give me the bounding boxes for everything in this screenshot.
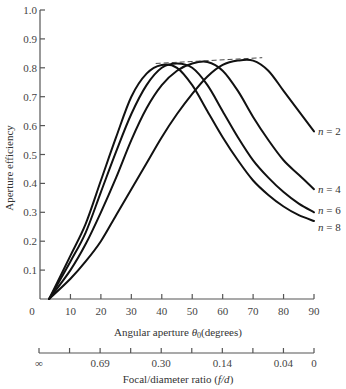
- y-axis-title: Aperture efficiency: [3, 125, 15, 211]
- series-label: n = 8: [318, 221, 341, 233]
- f-tick-label: 0.30: [152, 357, 172, 369]
- x-tick-label: 20: [95, 305, 107, 317]
- y-tick-label: 0.2: [23, 235, 37, 247]
- focal-ratio-axis: ∞0.690.300.140.040: [35, 348, 317, 369]
- x-tick-label: 50: [187, 305, 199, 317]
- x-tick-label: 70: [248, 305, 260, 317]
- x-axis: 0102030405060708090: [29, 294, 320, 317]
- x-tick-label: 40: [156, 305, 168, 317]
- y-tick-label: 0.6: [23, 120, 37, 132]
- x-tick-label: 90: [309, 305, 321, 317]
- curve-n4: [49, 62, 314, 299]
- series-labels: n = 2n = 4n = 6n = 8: [318, 125, 341, 233]
- curves: [49, 58, 314, 299]
- x-tick-label: 0: [29, 305, 35, 317]
- x-tick-label: 80: [278, 305, 290, 317]
- curve-n6: [49, 63, 314, 299]
- series-label: n = 2: [318, 125, 341, 137]
- x-tick-label: 60: [217, 305, 229, 317]
- y-tick-label: 0.7: [23, 91, 37, 103]
- curve-n2: [49, 60, 314, 299]
- y-tick-label: 0.8: [23, 62, 37, 74]
- series-label: n = 4: [318, 183, 341, 195]
- aperture-efficiency-chart: 0.10.20.30.40.50.60.70.80.91.0 010203040…: [0, 0, 346, 389]
- x-tick-label: 10: [65, 305, 77, 317]
- f-axis-title: Focal/diameter ratio (f/d): [123, 373, 234, 386]
- y-tick-label: 0.4: [23, 177, 37, 189]
- y-tick-label: 0.1: [23, 264, 37, 276]
- y-tick-label: 1.0: [23, 4, 37, 16]
- f-tick-label: 0.04: [274, 357, 294, 369]
- series-label: n = 6: [318, 204, 341, 216]
- curve-n8: [49, 64, 314, 299]
- f-tick-label: ∞: [35, 357, 43, 369]
- x-axis-title: Angular aperture θ0(degrees): [114, 326, 242, 340]
- y-tick-label: 0.9: [23, 33, 37, 45]
- x-tick-label: 30: [126, 305, 138, 317]
- y-tick-label: 0.3: [23, 206, 37, 218]
- f-tick-label: 0.69: [90, 357, 110, 369]
- y-tick-label: 0.5: [23, 149, 37, 161]
- f-tick-label: 0: [311, 357, 317, 369]
- y-axis: 0.10.20.30.40.50.60.70.80.91.0: [23, 4, 45, 299]
- f-tick-label: 0.14: [213, 357, 233, 369]
